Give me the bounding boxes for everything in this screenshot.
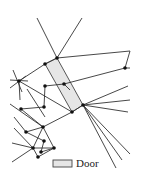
edge-line (37, 18, 57, 58)
node-point (123, 66, 127, 70)
edge-line (57, 18, 82, 58)
node-point (19, 107, 23, 111)
edge-line (26, 127, 43, 132)
legend-door-swatch (53, 160, 72, 167)
edge-line (19, 81, 20, 100)
edge-line (12, 148, 33, 162)
node-point (43, 62, 47, 66)
edge-line (83, 105, 122, 160)
network-diagram: Door (0, 0, 144, 179)
node-point (41, 125, 45, 129)
edge-line (64, 68, 125, 84)
node-point (42, 139, 46, 143)
node-point (39, 150, 43, 154)
edge-line (33, 127, 43, 148)
node-point (24, 130, 28, 134)
edge-line (21, 107, 44, 109)
node-point (42, 105, 46, 109)
node-point (31, 146, 35, 150)
legend: Door (53, 157, 99, 169)
node-point (55, 56, 59, 60)
node-point (70, 110, 74, 114)
edge-line (125, 51, 130, 68)
edge-line (83, 105, 128, 112)
edge-line (43, 127, 54, 148)
edge-line (26, 132, 44, 141)
node-point (17, 79, 21, 83)
node-point (81, 103, 85, 107)
edge-line (12, 143, 33, 148)
edge-line (57, 51, 130, 58)
edge-line (83, 105, 130, 154)
edge-line (83, 86, 128, 105)
legend-door-label: Door (76, 157, 99, 169)
edge-line (44, 86, 45, 107)
node-point (43, 84, 47, 88)
node-point (36, 155, 40, 159)
node-point (52, 146, 56, 150)
node-point (62, 82, 66, 86)
edge-line (43, 112, 72, 127)
edge-line (27, 89, 45, 117)
